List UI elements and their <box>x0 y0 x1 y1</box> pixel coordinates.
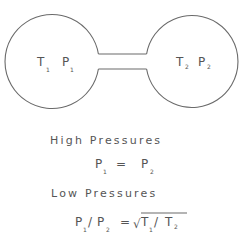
left-temperature-symbol: T <box>36 55 45 69</box>
low-pressure-equation: P 1 / P 2 = √ T 1 / T 2 <box>75 213 187 233</box>
high-pressures-heading: High Pressures <box>50 134 162 147</box>
sqrt-icon: √ <box>133 217 141 231</box>
lp-lhs-den-symbol: P <box>97 215 104 229</box>
hp-equals: = <box>116 157 126 171</box>
lp-lhs-num-subscript: 1 <box>83 226 87 233</box>
right-temperature-symbol: T <box>175 55 184 69</box>
left-pressure-symbol: P <box>62 55 69 69</box>
left-pressure-subscript: 1 <box>70 66 74 73</box>
right-temperature-subscript: 2 <box>185 63 189 70</box>
right-pressure-subscript: 2 <box>207 63 211 70</box>
right-pressure-symbol: P <box>198 55 205 69</box>
left-vessel-labels: T 1 P 1 <box>36 55 74 73</box>
high-pressure-equation: P 1 = P 2 <box>95 157 154 175</box>
right-vessel-outline <box>147 15 238 107</box>
left-temperature-subscript: 1 <box>46 66 50 73</box>
hp-rhs-symbol: P <box>141 157 148 171</box>
lp-rhs-num-subscript: 1 <box>149 226 153 233</box>
lp-rhs-slash: / <box>154 215 159 229</box>
hp-lhs-subscript: 1 <box>103 168 107 175</box>
hp-rhs-subscript: 2 <box>150 168 154 175</box>
lp-equals: = <box>120 215 130 229</box>
lp-lhs-slash: / <box>88 215 93 229</box>
lp-rhs-num-symbol: T <box>140 215 149 229</box>
right-vessel-labels: T 2 P 2 <box>175 55 211 70</box>
left-vessel-outline <box>5 14 98 108</box>
lp-lhs-den-subscript: 2 <box>106 226 110 233</box>
low-pressures-heading: Low Pressures <box>51 187 157 200</box>
hp-lhs-symbol: P <box>95 157 102 171</box>
lp-rhs-den-symbol: T <box>164 215 173 229</box>
thermal-transpiration-diagram: T 1 P 1 T 2 P 2 High Pressures P 1 = P 2… <box>0 0 245 243</box>
lp-rhs-den-subscript: 2 <box>174 223 178 230</box>
lp-lhs-num-symbol: P <box>75 215 82 229</box>
